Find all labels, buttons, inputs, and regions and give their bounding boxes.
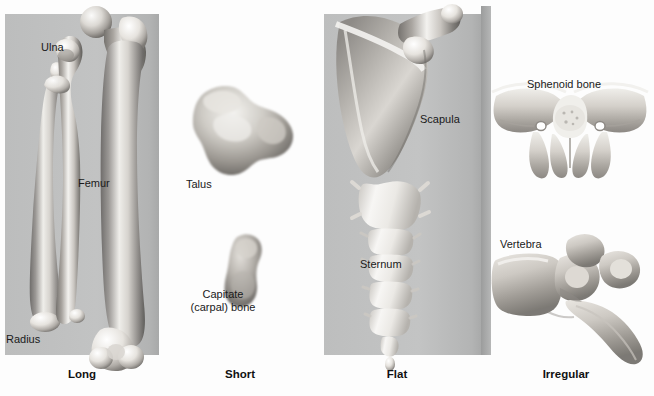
category-label-flat: Flat bbox=[357, 368, 437, 380]
bone-label-ulna: Ulna bbox=[41, 41, 64, 54]
bone-label-sphenoid: Sphenoid bone bbox=[527, 78, 601, 91]
bones-svg bbox=[0, 0, 654, 396]
bone-label-vertebra: Vertebra bbox=[500, 238, 542, 251]
bone-illustration-scapula bbox=[336, 4, 463, 178]
bone-label-sternum: Sternum bbox=[360, 258, 402, 271]
bone-label-capitate: Capitate (carpal) bone bbox=[177, 288, 269, 314]
bone-label-talus: Talus bbox=[186, 178, 212, 191]
bone-illustration-sphenoid bbox=[492, 84, 648, 179]
bone-label-capitate-line1: Capitate bbox=[177, 288, 269, 301]
bone-illustration-sternum bbox=[352, 181, 429, 371]
bone-classification-figure: Ulna Femur Radius Talus Capitate (carpal… bbox=[0, 0, 654, 396]
bone-label-scapula: Scapula bbox=[420, 113, 460, 126]
category-label-long: Long bbox=[42, 368, 122, 380]
bone-label-radius: Radius bbox=[6, 333, 40, 346]
bone-label-capitate-line2: (carpal) bone bbox=[177, 301, 269, 314]
bone-label-femur: Femur bbox=[78, 177, 110, 190]
bone-illustrations bbox=[0, 0, 654, 396]
category-label-irregular: Irregular bbox=[521, 368, 611, 380]
bone-illustration-vertebra bbox=[492, 234, 643, 364]
bone-illustration-talus bbox=[193, 86, 293, 175]
category-label-short: Short bbox=[200, 368, 280, 380]
